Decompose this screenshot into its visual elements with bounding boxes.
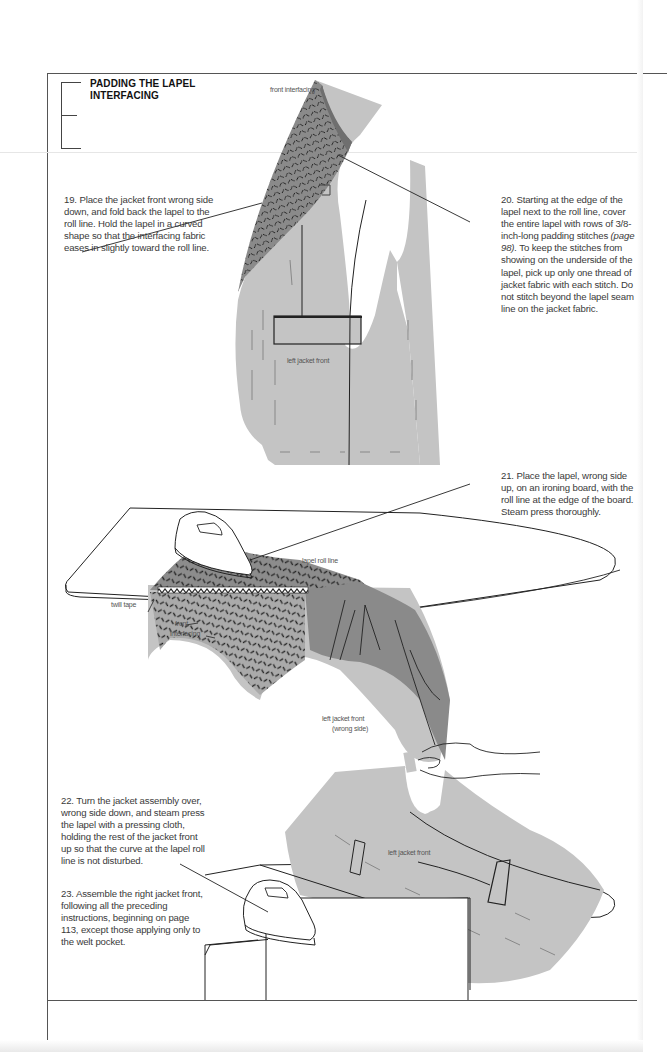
label-front-interfacing-mid-2: interfacing (170, 630, 200, 637)
step-22: 22. Turn the jacket assembly over, wrong… (61, 795, 209, 868)
step-number: 19. (64, 194, 77, 205)
label-left-jacket-front-bottom: left jacket front (388, 849, 430, 856)
pressing-lapel-illustration (180, 743, 615, 1000)
label-lapel-roll-line: lapel roll line (302, 557, 338, 564)
label-left-jacket-front-top: left jacket front (287, 357, 329, 364)
step-number: 20. (501, 194, 514, 205)
step-23: 23. Assemble the right jacket front, fol… (61, 888, 209, 948)
label-left-jacket-front-wrong-1: left jacket front (322, 715, 364, 722)
step-text: Turn the jacket assembly over, wrong sid… (61, 795, 205, 866)
step-number: 23. (61, 888, 74, 899)
step-text-continued: To keep the stitches from showing on the… (501, 242, 634, 313)
step-text: Place the lapel, wrong side up, on an ir… (501, 470, 633, 517)
label-front-interfacing-top: front interfacing (270, 86, 315, 93)
step-19: 19. Place the jacket front wrong side do… (64, 194, 224, 254)
step-20: 20. Starting at the edge of the lapel ne… (501, 194, 639, 315)
jacket-front-lapel-illustration (82, 80, 470, 465)
label-front-interfacing-mid-1: front (175, 620, 188, 627)
step-21: 21. Place the lapel, wrong side up, on a… (501, 470, 639, 518)
step-number: 21. (501, 470, 514, 481)
label-twill-tape: twill tape (111, 601, 136, 608)
step-text: Place the jacket front wrong side down, … (64, 194, 213, 253)
step-number: 22. (61, 795, 74, 806)
label-left-jacket-front-wrong-2: (wrong side) (332, 725, 368, 732)
step-text: Assemble the right jacket front, followi… (61, 888, 203, 947)
